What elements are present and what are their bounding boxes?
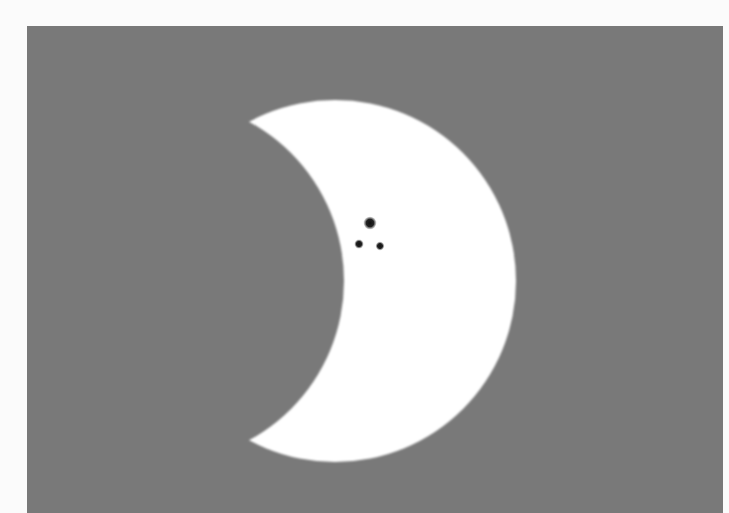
- eclipse-graphic: [0, 0, 729, 513]
- sun-crescent: [154, 100, 516, 462]
- sunspot: [364, 217, 377, 230]
- sunspot: [376, 242, 384, 250]
- sunspot: [355, 240, 364, 249]
